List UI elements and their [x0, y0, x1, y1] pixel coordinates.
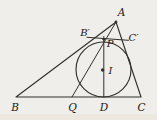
label-point-q: Q — [68, 101, 77, 114]
label-point-c-prime: C′ — [129, 32, 140, 43]
point-dot-p — [102, 38, 105, 41]
label-point-p: P — [106, 38, 114, 49]
paper-edge — [0, 114, 157, 120]
incenter-dot-i — [101, 68, 104, 71]
label-vertex-a: A — [117, 6, 126, 18]
figure-canvas: A B C Q D B′ C′ P I — [0, 0, 157, 120]
label-vertex-b: B — [10, 101, 19, 113]
geometry-figure: A B C Q D B′ C′ P I — [0, 0, 157, 120]
vertex-dot-a — [115, 21, 118, 24]
figure-background — [0, 0, 157, 120]
label-point-d: D — [99, 101, 109, 113]
label-vertex-c: C — [137, 101, 145, 113]
label-point-b-prime: B′ — [79, 27, 90, 38]
